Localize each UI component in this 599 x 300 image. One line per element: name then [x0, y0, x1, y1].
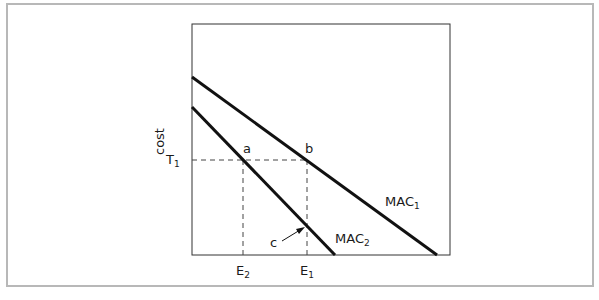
- plot-area: [192, 24, 450, 255]
- c-arrowhead-icon: [296, 227, 305, 234]
- mac-diagram: cost T1 E2 E1 a b c MAC1 MAC2: [0, 0, 599, 300]
- c-arrow: [282, 230, 300, 241]
- point-b-label: b: [305, 141, 313, 156]
- mac1-line: [192, 77, 437, 255]
- point-a-label: a: [243, 141, 251, 156]
- mac2-label: MAC2: [335, 231, 370, 248]
- point-c-label: c: [270, 235, 277, 250]
- mac1-label: MAC1: [385, 194, 420, 211]
- t1-label: T1: [165, 152, 180, 169]
- e2-label: E2: [236, 263, 250, 280]
- y-axis-label: cost: [152, 128, 167, 155]
- e1-label: E1: [300, 263, 314, 280]
